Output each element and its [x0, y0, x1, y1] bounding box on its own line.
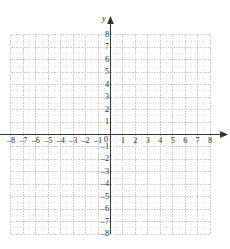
- y-tick-label--8: –8: [99, 230, 109, 238]
- y-tick-label-6: 6: [99, 56, 109, 64]
- y-axis-name: y: [102, 13, 106, 23]
- coordinate-plane: [0, 0, 230, 249]
- y-axis-arrowhead: [107, 16, 114, 24]
- x-tick-label-5: 5: [171, 137, 175, 145]
- x-axis-arrowhead: [220, 131, 228, 138]
- y-tick-label-1: 1: [99, 118, 109, 126]
- y-tick-label-5: 5: [99, 68, 109, 76]
- y-tick-label-8: 8: [99, 31, 109, 39]
- x-tick-label-1: 1: [121, 137, 125, 145]
- y-tick-label-3: 3: [99, 93, 109, 101]
- x-tick-label--7: –7: [19, 137, 27, 145]
- x-tick-label-4: 4: [158, 137, 162, 145]
- x-tick-label--6: –6: [32, 137, 40, 145]
- y-tick-label--6: –6: [99, 205, 109, 213]
- y-tick-label--7: –7: [99, 218, 109, 226]
- x-tick-label-7: 7: [196, 137, 200, 145]
- x-tick-label-8: 8: [208, 137, 212, 145]
- y-tick-label-7: 7: [99, 43, 109, 51]
- y-tick-label--3: –3: [99, 168, 109, 176]
- axis-lines: [0, 16, 228, 234]
- y-tick-label--4: –4: [99, 180, 109, 188]
- x-tick-label-3: 3: [146, 137, 150, 145]
- y-tick-label--2: –2: [99, 155, 109, 163]
- x-tick-label-6: 6: [183, 137, 187, 145]
- x-tick-label--8: –8: [7, 137, 15, 145]
- x-tick-label--2: –2: [82, 137, 90, 145]
- y-tick-label--5: –5: [99, 193, 109, 201]
- y-tick-label-2: 2: [99, 105, 109, 113]
- y-tick-label--1: –1: [99, 143, 109, 151]
- x-tick-label-2: 2: [133, 137, 137, 145]
- y-tick-label-4: 4: [99, 81, 109, 89]
- x-tick-label--3: –3: [69, 137, 77, 145]
- x-tick-label--4: –4: [57, 137, 65, 145]
- x-tick-label--5: –5: [44, 137, 52, 145]
